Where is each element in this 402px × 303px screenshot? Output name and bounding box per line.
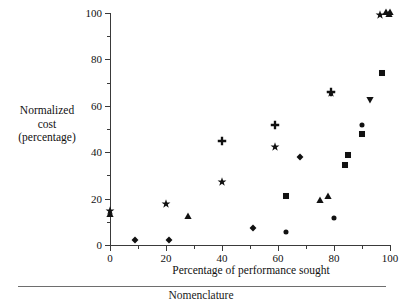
x-tick (222, 246, 223, 251)
data-point-triangle-up (105, 209, 114, 218)
data-point-square (282, 192, 291, 201)
plot-area: 020406080100 020406080100 (110, 13, 390, 246)
footer-divider (18, 286, 386, 287)
data-point-plus (326, 87, 336, 97)
x-tick-minor (250, 246, 251, 249)
data-point-circle (358, 122, 365, 129)
y-tick-minor (107, 175, 110, 176)
data-point-triangle-up (184, 211, 193, 220)
data-point-plus (270, 120, 280, 130)
y-tick-minor (107, 129, 110, 130)
y-tick-minor (107, 36, 110, 37)
y-tick-minor (107, 222, 110, 223)
scatter-plot-figure: Normalized cost (percentage) 02040608010… (0, 0, 402, 303)
x-axis-label: Percentage of performance sought (110, 264, 392, 276)
x-tick (390, 246, 391, 251)
data-point-star (217, 177, 227, 187)
data-point-triangle-up (385, 7, 394, 16)
x-tick-label: 60 (273, 253, 284, 264)
data-point-square (358, 129, 367, 138)
x-tick-minor (194, 246, 195, 249)
y-axis-label-line-1: Normalized (0, 104, 94, 118)
data-point-plus (217, 136, 227, 146)
y-axis-label-line-2: cost (0, 118, 94, 132)
footer-caption: Nomenclature (0, 289, 402, 301)
y-tick-label: 80 (91, 54, 102, 65)
data-point-diamond (164, 235, 173, 244)
y-tick-label: 60 (91, 100, 102, 111)
x-tick (166, 246, 167, 251)
x-tick-label: 0 (107, 253, 113, 264)
x-tick (110, 246, 111, 251)
y-tick (105, 106, 110, 107)
data-point-square (341, 161, 350, 170)
data-point-square (344, 151, 353, 160)
y-tick (105, 152, 110, 153)
y-tick-minor (107, 83, 110, 84)
data-point-star (270, 142, 280, 152)
y-axis-label-line-3: (percentage) (0, 131, 94, 145)
data-point-diamond (296, 152, 305, 161)
data-point-star (161, 199, 171, 209)
x-tick-minor (306, 246, 307, 249)
x-tick (278, 246, 279, 251)
data-point-circle (283, 228, 290, 235)
x-tick-label: 20 (161, 253, 172, 264)
x-tick-label: 100 (382, 253, 399, 264)
data-point-triangle-up (324, 192, 333, 201)
x-tick-minor (138, 246, 139, 249)
x-tick-minor (362, 246, 363, 249)
data-point-diamond (248, 223, 257, 232)
x-tick-label: 80 (329, 253, 340, 264)
y-tick (105, 13, 110, 14)
y-tick (105, 199, 110, 200)
y-tick-label: 0 (97, 240, 103, 251)
x-tick-label: 40 (217, 253, 228, 264)
y-tick-label: 100 (86, 8, 103, 19)
data-point-square (377, 69, 386, 78)
y-tick (105, 59, 110, 60)
y-axis-label: Normalized cost (percentage) (0, 104, 94, 145)
data-point-diamond (131, 235, 140, 244)
x-tick (334, 246, 335, 251)
data-point-triangle-down (366, 95, 375, 104)
y-tick-label: 40 (91, 147, 102, 158)
data-point-circle (330, 215, 337, 222)
y-tick-label: 20 (91, 193, 102, 204)
